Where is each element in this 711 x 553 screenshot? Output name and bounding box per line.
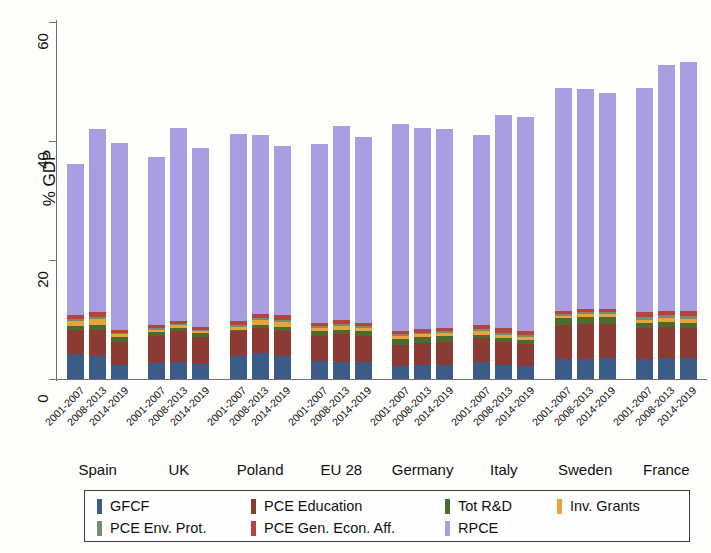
legend-item[interactable]: PCE Env. Prot. [97,520,206,536]
bar [436,129,453,379]
bar-segment [577,359,594,379]
y-tick-label: 20 [34,259,51,301]
legend-label: GFCF [110,498,149,514]
bar-segment [414,365,431,379]
bar-segment [680,328,697,358]
bar-segment [170,362,187,379]
bar-segment [148,157,165,325]
bar-segment [230,356,247,379]
bar-segment [517,117,534,331]
bar-segment [636,328,653,358]
bar-segment [599,358,616,379]
bar [230,134,247,379]
chart-legend: GFCFPCE EducationTot R&DInv. GrantsPCE E… [84,490,690,542]
bar-segment [577,317,594,325]
bar-segment [658,65,675,311]
bar-segment [192,148,209,327]
bar [67,164,84,379]
legend-item[interactable]: RPCE [445,520,498,536]
bar-segment [495,342,512,365]
country-label: Sweden [545,461,626,478]
legend-label: PCE Education [264,498,362,514]
bar-segment [111,365,128,379]
country-label: France [626,461,707,478]
bar-segment [473,362,490,379]
legend-swatch-icon [445,499,450,514]
legend-item[interactable]: GFCF [97,498,149,514]
bar-segment [555,325,572,359]
bar-segment [658,358,675,379]
bar [658,65,675,379]
bar-segment [274,356,291,379]
bar [170,128,187,379]
bar-segment [311,144,328,323]
bar-segment [148,363,165,379]
y-tick-label: 40 [34,140,51,182]
bar-segment [517,366,534,379]
legend-item[interactable]: PCE Gen. Econ. Aff. [251,520,395,536]
country-label: EU 28 [301,461,382,478]
bar [473,135,490,380]
bar [252,135,269,380]
bar-segment [495,115,512,329]
bar [111,143,128,379]
legend-swatch-icon [251,521,256,536]
bar [680,62,697,379]
bar-segment [311,361,328,379]
bar-segment [230,134,247,321]
bar-segment [555,88,572,311]
bar-segment [355,137,372,322]
bar [311,144,328,379]
stacked-bar-chart: % GDP 0204060 2001-20072008-20132014-201… [0,0,711,553]
bar-segment [414,343,431,366]
legend-swatch-icon [557,499,562,514]
bar-segment [333,334,350,361]
bar [192,148,209,379]
bar-segment [89,356,106,379]
country-label: UK [138,461,219,478]
bar-segment [473,338,490,362]
bar-segment [599,93,616,309]
legend-item[interactable]: PCE Education [251,498,362,514]
bar-segment [89,330,106,356]
country-label: Italy [463,461,544,478]
bar-segment [555,318,572,325]
bar-segment [577,324,594,359]
bar-segment [111,143,128,329]
bar-segment [67,354,84,379]
bar [89,129,106,379]
bar [555,88,572,380]
bar-segment [230,331,247,356]
legend-item[interactable]: Tot R&D [445,498,512,514]
bar-segment [577,89,594,309]
bar-segment [252,353,269,379]
bar [495,115,512,379]
bar-segment [170,331,187,362]
bar-segment [192,364,209,379]
bar-segment [555,359,572,379]
legend-swatch-icon [97,521,102,536]
bar-segment [148,336,165,363]
bar-segment [392,124,409,330]
legend-item[interactable]: Inv. Grants [557,498,640,514]
bar [333,126,350,379]
bar-segment [274,331,291,355]
bar-segment [436,365,453,379]
bar-segment [192,337,209,364]
bar [577,89,594,379]
bar [274,146,291,379]
x-axis-line [56,379,707,380]
legend-swatch-icon [251,499,256,514]
bar-segment [355,336,372,362]
bar-segment [67,164,84,316]
country-label: Spain [57,461,138,478]
bar-segment [252,135,269,314]
bar-segment [67,330,84,354]
legend-swatch-icon [97,499,102,514]
bar-segment [355,362,372,379]
bar [355,137,372,379]
bar [599,93,616,379]
bar-segment [274,146,291,316]
country-label: Germany [382,461,463,478]
bars-layer [57,22,707,379]
